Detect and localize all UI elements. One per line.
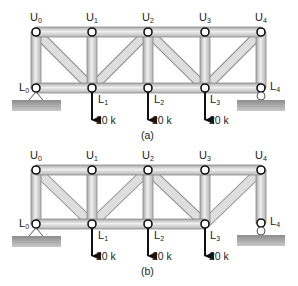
label-L3: L3 xyxy=(210,229,220,242)
member-U2-L2 xyxy=(143,32,153,88)
joint-L1 xyxy=(88,84,96,92)
label-U2: U2 xyxy=(142,11,154,24)
roller-icon xyxy=(257,227,265,235)
joint-L3 xyxy=(201,220,209,228)
member-U3-L3 xyxy=(200,170,210,224)
ground-right-b xyxy=(237,235,285,246)
label-U1: U1 xyxy=(86,11,98,24)
joint-L2 xyxy=(144,84,152,92)
pin-support-a xyxy=(12,92,61,111)
member-U1-L1 xyxy=(87,32,97,88)
member-U2-L2 xyxy=(143,170,153,224)
ground-right-a xyxy=(237,100,285,111)
label-U4: U4 xyxy=(255,11,267,24)
joint-L4 xyxy=(257,219,265,227)
member-U4-L4 xyxy=(256,32,266,88)
label-U3: U3 xyxy=(199,149,211,162)
label-U1: U1 xyxy=(86,149,98,162)
joint-U2 xyxy=(144,166,152,174)
caption-a: (a) xyxy=(141,129,154,141)
label-U2: U2 xyxy=(142,149,154,162)
joint-U4 xyxy=(257,166,265,174)
ground-left-b xyxy=(12,236,61,247)
label-L0: L0 xyxy=(19,81,29,94)
truss-b: U0 U1 U2 U3 U4 L0 L1 L2 L3 L4 20 k 20 k … xyxy=(12,149,285,277)
member-U0-L0 xyxy=(31,32,41,88)
label-L2: L2 xyxy=(154,93,164,106)
pin-support-b xyxy=(12,228,61,247)
label-L2: L2 xyxy=(154,229,164,242)
joint-L1 xyxy=(88,220,96,228)
joint-L4 xyxy=(257,84,265,92)
truss-diagram: U0 U1 U2 U3 U4 L0 L1 L2 L3 L4 20 k 20 k … xyxy=(0,0,298,286)
load-label-L3: 20 k xyxy=(209,250,230,262)
label-L1: L1 xyxy=(98,93,108,106)
label-L4: L4 xyxy=(270,80,280,93)
joint-U1 xyxy=(88,28,96,36)
member-U1-L1 xyxy=(87,170,97,224)
roller-support-b xyxy=(237,227,285,246)
joint-U0 xyxy=(32,28,40,36)
label-U3: U3 xyxy=(199,11,211,24)
roller-icon xyxy=(257,92,265,100)
label-L1: L1 xyxy=(98,229,108,242)
ground-left-a xyxy=(12,100,61,111)
label-U0: U0 xyxy=(30,11,42,24)
label-L4: L4 xyxy=(270,215,280,228)
joint-L0 xyxy=(32,84,40,92)
joint-L2 xyxy=(144,220,152,228)
joint-U1 xyxy=(88,166,96,174)
joint-U3 xyxy=(201,166,209,174)
load-label-L2: 20 k xyxy=(152,250,173,262)
joint-U0 xyxy=(32,166,40,174)
label-L3: L3 xyxy=(210,93,220,106)
load-label-L1: 20 k xyxy=(96,114,117,126)
joint-L3 xyxy=(201,84,209,92)
joint-U4 xyxy=(257,28,265,36)
joint-U2 xyxy=(144,28,152,36)
load-label-L1: 20 k xyxy=(96,250,117,262)
label-L0: L0 xyxy=(19,217,29,230)
member-U4-L4 xyxy=(256,170,266,223)
member-U0-L0 xyxy=(31,170,41,224)
joint-U3 xyxy=(201,28,209,36)
roller-support-a xyxy=(237,92,285,111)
truss-a: U0 U1 U2 U3 U4 L0 L1 L2 L3 L4 20 k 20 k … xyxy=(12,11,285,141)
joint-L0 xyxy=(32,220,40,228)
member-U3-L3 xyxy=(200,32,210,88)
load-label-L3: 20 k xyxy=(209,114,230,126)
label-U0: U0 xyxy=(30,149,42,162)
label-U4: U4 xyxy=(255,149,267,162)
caption-b: (b) xyxy=(141,265,154,277)
bottom-chord-b xyxy=(36,219,205,229)
load-label-L2: 20 k xyxy=(152,114,173,126)
